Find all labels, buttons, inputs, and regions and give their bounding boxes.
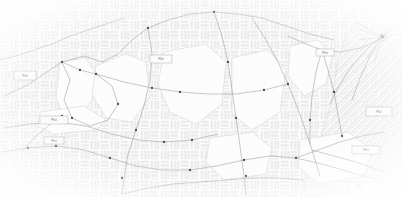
survey-map[interactable]: PlotPlotPlotPlotPlotPlotPlotPlot (0, 0, 402, 197)
edge-fade-overlay (0, 0, 402, 197)
map-canvas[interactable]: PlotPlotPlotPlotPlotPlotPlotPlot (0, 0, 402, 197)
